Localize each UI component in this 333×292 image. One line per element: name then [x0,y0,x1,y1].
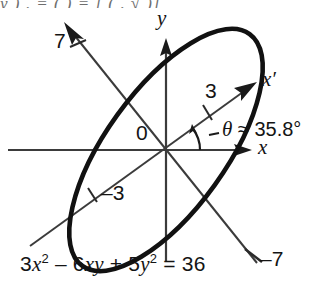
x-axis-line [8,144,252,156]
theta-symbol: θ [222,117,232,141]
tick-label-x-prime-positive: 3 [205,80,217,101]
origin-label: 0 [136,122,148,143]
tick-label-y-prime-negative: –7 [260,248,283,269]
eq-op2: + [110,252,122,275]
eq-term3-coef: 5 [128,252,140,275]
angle-value: ≈ 35.8° [238,118,301,140]
tick-label-y-prime-positive: 7 [54,30,66,51]
y-prime-axis-line [64,22,262,263]
eq-equals: = [163,252,175,275]
x-prime-axis-label: x′ [262,69,276,90]
x-prime-mark: ′ [271,67,276,91]
angle-label: θ ≈ 35.8° [222,119,301,140]
eq-term2-var: xy [85,252,104,276]
eq-term1-coef: 3 [20,252,32,275]
conic-rotation-figure: y ) , = ( ) = [ ( , √ )] [0,0,333,292]
eq-term3-exp: 2 [150,251,157,266]
angle-leader [209,133,219,135]
equation-label: 3x2 – 6xy + 5y2 = 36 [20,252,206,275]
eq-op1: – [55,252,67,275]
eq-term2-coef: 6 [73,252,85,275]
eq-term3-var: y [140,252,150,276]
y-axis-label: y [157,8,166,29]
eq-term1-exp: 2 [41,251,48,266]
x-prime-letter: x [262,67,271,91]
tick-label-x-prime-negative: –3 [101,182,124,203]
eq-rhs: 36 [182,252,206,275]
eq-term1-var: x [32,252,42,276]
x-axis-label: x [258,137,267,158]
